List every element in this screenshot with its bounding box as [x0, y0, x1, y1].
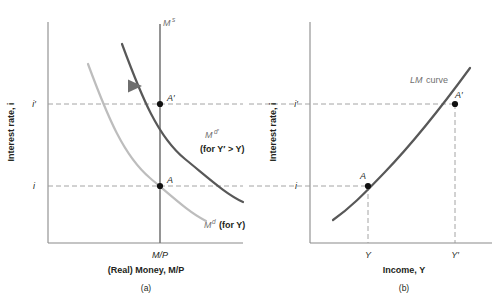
panel-a-xtick-mp: M/P — [152, 250, 168, 260]
panel-a-point-a-label: A — [166, 175, 173, 185]
panel-a-point-a — [157, 183, 163, 189]
figure-background — [0, 0, 501, 304]
panel-b-caption: (b) — [399, 283, 410, 293]
panel-b-point-a-prime-label: A′ — [454, 90, 463, 100]
panel-b-y-axis-title: Interest rate, i — [268, 102, 278, 161]
panel-a-point-a-prime — [157, 101, 163, 107]
panel-b-x-axis-title: Income, Y — [383, 265, 425, 275]
panel-a-point-a-prime-label: A′ — [166, 93, 175, 103]
money-demand-initial-label: M d (for Y) — [204, 218, 245, 230]
money-demand-initial-label-sup: d — [212, 218, 216, 225]
panel-b-point-a-prime — [452, 101, 458, 107]
panel-b-point-a — [365, 183, 371, 189]
panel-a-ytick-i-prime: i′ — [32, 99, 36, 109]
panel-b-ytick-i-prime: i′ — [294, 99, 298, 109]
lm-curve-label-base: LM — [410, 75, 423, 85]
money-demand-shifted-label-base: M — [205, 130, 213, 140]
panel-a-x-axis-title: (Real) Money, M/P — [108, 265, 184, 275]
money-market-lm-curve-figure: A′ A M s M d′ (for Y′ > Y) M d (for Y) i… — [0, 0, 501, 304]
money-supply-label-base: M — [163, 18, 171, 28]
money-demand-initial-label-base: M — [204, 220, 212, 230]
panel-b-xtick-y: Y — [365, 250, 372, 260]
panel-b-point-a-label: A — [359, 171, 366, 181]
money-demand-shifted-label-sup: d′ — [214, 128, 220, 135]
money-demand-shifted-label-suffix: (for Y′ > Y) — [200, 144, 245, 154]
lm-curve-label-suffix: curve — [426, 75, 448, 85]
panel-a-caption: (a) — [141, 283, 152, 293]
panel-b-xtick-y-prime: Y′ — [451, 250, 459, 260]
money-demand-initial-label-suffix: (for Y) — [219, 220, 245, 230]
lm-curve-label: LM curve — [410, 75, 448, 85]
panel-a-y-axis-title: Interest rate, i — [6, 102, 16, 161]
